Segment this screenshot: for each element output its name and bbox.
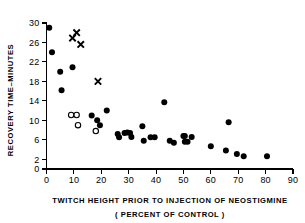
- data-point-filled: [171, 140, 177, 146]
- data-point-filled: [185, 139, 191, 145]
- x-axis-subtitle: ( PERCENT OF CONTROL ): [115, 210, 225, 219]
- y-tick-label: 30: [29, 18, 39, 28]
- series-cross-markers: [69, 30, 101, 85]
- data-point-cross: [73, 30, 79, 36]
- x-axis: 0102030405060708090: [44, 169, 298, 185]
- y-axis-title: RECOVERY TIME–MINUTES: [6, 44, 15, 156]
- x-tick-label: 20: [96, 175, 106, 185]
- data-point-cross: [95, 78, 101, 84]
- x-tick-label: 60: [206, 175, 216, 185]
- y-tick-label: 0: [34, 164, 39, 174]
- data-point-filled: [182, 133, 188, 139]
- x-tick-label: 50: [178, 175, 188, 185]
- data-point-open: [75, 123, 80, 128]
- x-tick-label: 10: [69, 175, 79, 185]
- data-point-filled: [104, 108, 110, 114]
- data-point-filled: [208, 143, 214, 149]
- x-tick-label: 90: [288, 175, 298, 185]
- data-points-layer: [46, 25, 270, 159]
- data-point-open: [74, 112, 79, 117]
- data-point-filled: [226, 119, 232, 125]
- y-tick-label: 18: [29, 77, 39, 87]
- data-point-cross: [78, 41, 84, 47]
- data-point-filled: [46, 25, 52, 31]
- data-point-filled: [161, 99, 167, 105]
- data-point-filled: [59, 87, 65, 93]
- data-point-open: [93, 128, 98, 133]
- x-tick-label: 70: [233, 175, 243, 185]
- chart-canvas: 026101418222630 0102030405060708090 RECO…: [0, 0, 305, 223]
- x-tick-label: 40: [151, 175, 161, 185]
- y-tick-label: 2: [34, 155, 39, 165]
- y-tick-label: 14: [29, 96, 39, 106]
- y-tick-label: 26: [29, 38, 39, 48]
- data-point-filled: [234, 151, 240, 157]
- data-point-filled: [57, 69, 63, 75]
- scatter-plot-figure: 026101418222630 0102030405060708090 RECO…: [0, 0, 305, 223]
- data-point-filled: [264, 153, 270, 159]
- data-point-filled: [116, 134, 122, 140]
- x-tick-label: 80: [260, 175, 270, 185]
- data-point-filled: [141, 138, 147, 144]
- data-point-filled: [49, 49, 55, 55]
- x-tick-label: 0: [44, 175, 49, 185]
- x-tick-label: 30: [123, 175, 133, 185]
- y-tick-label: 10: [29, 116, 39, 126]
- data-point-filled: [97, 122, 103, 128]
- data-point-open: [68, 112, 73, 117]
- data-point-filled: [152, 134, 158, 140]
- y-tick-label: 22: [29, 57, 39, 67]
- data-point-filled: [223, 148, 229, 154]
- data-point-filled: [139, 123, 145, 129]
- data-point-filled: [241, 153, 247, 159]
- data-point-filled: [70, 64, 76, 70]
- data-point-filled: [89, 112, 95, 118]
- data-point-filled: [189, 134, 195, 140]
- y-axis: 026101418222630: [29, 18, 46, 174]
- x-axis-title: TWITCH HEIGHT PRIOR TO INJECTION OF NEOS…: [52, 196, 287, 205]
- data-point-filled: [128, 134, 134, 140]
- y-tick-label: 6: [34, 135, 39, 145]
